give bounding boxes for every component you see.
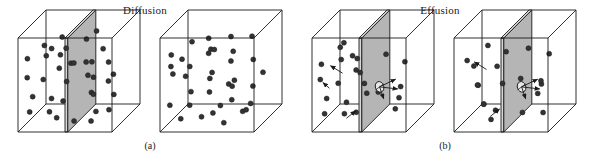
diffusion-cube-right-molecule (168, 64, 173, 69)
effusion-cube-right-molecule (538, 78, 543, 83)
diffusion-cube-left-molecule (94, 28, 99, 33)
diffusion-cube-left-molecule (101, 46, 106, 51)
effusion-cube-left-molecule (322, 111, 327, 116)
effusion-cube-left-molecule (341, 40, 346, 45)
effusion-cube-right (454, 10, 576, 132)
diffusion-cube-left-molecule (93, 109, 98, 114)
diffusion-cube-left-molecule (57, 66, 62, 71)
diffusion-cube-left-molecule (42, 43, 47, 48)
effusion-cube-right-molecule (547, 51, 552, 56)
diffusion-cube-left-molecule (54, 115, 59, 120)
effusion-cube-left-molecule (344, 100, 349, 105)
effusion-cube-left-molecule (336, 81, 341, 86)
diffusion-cube-right-molecule (210, 110, 215, 115)
diffusion-cube-left-molecule (41, 77, 46, 82)
effusion-cube-right-molecule (500, 81, 505, 86)
diffusion-cube-left-molecule (91, 75, 96, 80)
effusion-cube-left-molecule (319, 62, 324, 67)
effusion-cube-left-molecule (402, 59, 407, 64)
diffusion-cube-left-molecule (72, 119, 77, 124)
diffusion-cube-left-molecule (60, 35, 65, 40)
diffusion-cube-left-molecule (25, 56, 30, 61)
effusion-cube-right-molecule (471, 64, 476, 69)
diffusion-cube-right-molecule (230, 84, 235, 89)
diffusion-cube-right-molecule (188, 89, 193, 94)
diffusion-cube-right-molecule (207, 76, 212, 81)
diffusion-cube-right-molecule (167, 103, 172, 108)
diffusion-cube-left-molecule (91, 92, 96, 97)
diffusion-cube-left-molecule (106, 107, 111, 112)
diffusion-cube-right-molecule (228, 59, 233, 64)
diffusion-cube-right-molecule (229, 97, 234, 102)
diffusion-cube-right-molecule (251, 57, 256, 62)
panel-title-diffusion: Diffusion (75, 4, 215, 16)
effusion-cube-right-molecule (526, 46, 531, 51)
diffusion-cube-left-molecule (30, 94, 35, 99)
diffusion-cube-right-molecule (210, 70, 215, 75)
diffusion-cube-left (18, 10, 140, 132)
effusion-cube-right-molecule (481, 102, 486, 107)
effusion-cube-right-molecule (541, 110, 546, 115)
diffusion-cube-right-molecule (199, 114, 204, 119)
diffusion-cube-right-molecule (206, 51, 211, 56)
effusion-cube-left (312, 10, 434, 132)
diffusion-cube-left-molecule (25, 75, 30, 80)
effusion-cube-right-molecule (465, 58, 470, 63)
diffusion-cube-right-molecule (221, 120, 226, 125)
diffusion-cube-left-molecule (89, 119, 94, 124)
diffusion-cube-right-molecule (180, 57, 185, 62)
diffusion-cube-left-molecule (89, 59, 94, 64)
effusion-cube-left-molecule (318, 77, 323, 82)
diffusion-cube-left-molecule (64, 79, 69, 84)
effusion-cube-right-molecule (485, 43, 490, 48)
diffusion-cube-left-molecule (61, 99, 66, 104)
panel-caption-b: (b) (400, 140, 490, 151)
diffusion-cube-right-molecule (187, 64, 192, 69)
diffusion-cube-right-molecule (244, 107, 249, 112)
effusion-cube-right-molecule (535, 91, 540, 96)
effusion-cube-left-molecule (393, 106, 398, 111)
effusion-cube-right-molecule (504, 49, 509, 54)
diffusion-cube-left-molecule (64, 46, 69, 51)
effusion-cube-left-molecule (398, 84, 403, 89)
diffusion-cube-right-molecule (232, 78, 237, 83)
diffusion-cube-left-molecule (49, 46, 54, 51)
diffusion-cube-right-molecule (260, 70, 265, 75)
effusion-cube-left-molecule (324, 96, 329, 101)
effusion-cube-left-molecule (358, 70, 363, 75)
panel-caption-a: (a) (105, 140, 195, 151)
diffusion-cube-left-molecule (58, 52, 63, 57)
diffusion-cube-right-molecule (190, 39, 195, 44)
effusion-cube-left-molecule (384, 52, 389, 57)
diffusion-cube-right-molecule (212, 47, 217, 52)
effusion-cube-left-molecule (364, 91, 369, 96)
diffusion-cube-right-molecule (248, 101, 253, 106)
diffusion-cube-right-molecule (231, 49, 236, 54)
figure-canvas (0, 0, 596, 162)
diffusion-cube-left-molecule (49, 96, 54, 101)
diffusion-cube-right-molecule (169, 52, 174, 57)
diffusion-cube-left-molecule (106, 60, 111, 65)
diffusion-cube-left-molecule (84, 59, 89, 64)
diffusion-cube-left-molecule (71, 60, 76, 65)
diffusion-cube-left-molecule (84, 37, 89, 42)
effusion-cube-left-molecule (338, 45, 343, 50)
diffusion-cube-left-molecule (47, 109, 52, 114)
effusion-cube-left-molecule (362, 81, 367, 86)
diffusion-cube-right-molecule (250, 84, 255, 89)
effusion-cube-left-molecule (350, 53, 355, 58)
effusion-cube-right-molecule (518, 76, 523, 81)
diffusion-cube-right-molecule (207, 89, 212, 94)
effusion-cube-right-molecule (495, 64, 500, 69)
effusion-cube-left-molecule (342, 111, 347, 116)
diffusion-cube-right-molecule (187, 103, 192, 108)
effusion-cube-left-molecule (339, 57, 344, 62)
diffusion-cube-right-molecule (170, 72, 175, 77)
diffusion-cube-right-molecule (218, 103, 223, 108)
effusion-cube-right-molecule (475, 83, 480, 88)
effusion-cube-right-molecule (520, 110, 525, 115)
diffusion-cube-right-molecule (183, 74, 188, 79)
diffusion-cube-right-molecule (178, 116, 183, 121)
diffusion-cube-right (160, 10, 282, 132)
effusion-cube-left-molecule (397, 95, 402, 100)
